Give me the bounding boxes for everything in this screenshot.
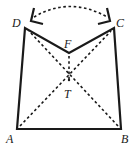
point-t (68, 79, 70, 81)
label-b: B (121, 132, 129, 145)
label-d: D (11, 16, 21, 30)
fold-arc (34, 7, 107, 18)
geometry-diagram: D C F T A B (0, 0, 134, 145)
label-c: C (116, 16, 125, 30)
label-f: F (63, 37, 72, 51)
label-t: T (64, 87, 72, 101)
segment-bd (29, 31, 118, 126)
arrowhead-d-icon (31, 8, 43, 24)
label-a: A (5, 132, 14, 145)
